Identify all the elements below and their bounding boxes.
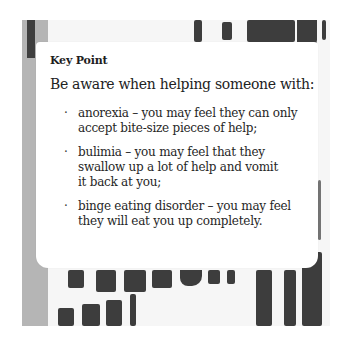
paint-stroke <box>68 270 84 288</box>
bullet-dot-icon: · <box>64 199 68 214</box>
key-point-card: Key Point Be aware when helping someone … <box>36 42 318 268</box>
paint-stroke <box>96 270 116 292</box>
paint-stroke <box>180 270 202 286</box>
bullet-line: binge eating disorder – you may feel <box>78 199 314 214</box>
bullet-line: it back at you; <box>78 175 314 190</box>
paint-stroke <box>247 20 295 42</box>
paint-stroke <box>106 300 122 326</box>
paint-stroke <box>124 270 146 292</box>
paint-stroke <box>284 270 296 326</box>
paint-stroke <box>318 180 321 240</box>
bullet-item-binge-eating: · binge eating disorder – you may feel t… <box>64 199 314 229</box>
bullet-line: anorexia – you may feel they can only <box>78 106 314 121</box>
bullet-dot-icon: · <box>64 106 68 121</box>
bullet-line: swallow up a lot of help and vomit <box>78 160 314 175</box>
paint-stroke <box>227 270 235 284</box>
bullet-line: they will eat you up completely. <box>78 214 314 229</box>
paint-stroke <box>130 294 136 326</box>
paint-stroke <box>58 308 74 326</box>
paint-stroke <box>194 20 202 42</box>
bullet-item-anorexia: · anorexia – you may feel they can only … <box>64 106 314 136</box>
card-title: Key Point <box>50 54 107 67</box>
paint-stroke <box>222 22 232 40</box>
bullet-list: · anorexia – you may feel they can only … <box>64 106 314 238</box>
bullet-line: accept bite-size pieces of help; <box>78 121 314 136</box>
bullet-dot-icon: · <box>64 145 68 160</box>
card-intro: Be aware when helping someone with: <box>50 76 314 92</box>
bullet-item-bulimia: · bulimia – you may feel that they swall… <box>64 145 314 190</box>
paint-stroke <box>322 20 326 40</box>
paint-stroke <box>208 270 220 284</box>
paint-stroke <box>82 304 100 326</box>
paint-stroke <box>256 270 272 326</box>
bullet-line: bulimia – you may feel that they <box>78 145 314 160</box>
paint-stroke <box>152 270 172 288</box>
